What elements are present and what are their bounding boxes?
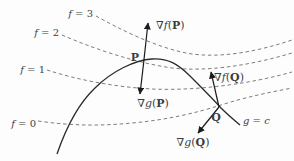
label-point-Q: Q [211,111,221,124]
diagram-svg: f = 3f = 2f = 1f = 0∇f(P)P∇g(P)∇f(Q)Qg =… [0,0,294,161]
lagrange-multipliers-figure: f = 3f = 2f = 1f = 0∇f(P)P∇g(P)∇f(Q)Qg =… [0,0,294,161]
label-f2: f = 2 [33,27,59,38]
label-f0: f = 0 [10,118,36,129]
gradient-f-at-P [144,23,149,64]
label-grad-f-Q: ∇f(Q) [214,71,244,84]
gradient-g-at-P [140,64,144,94]
label-grad-f-P: ∇f(P) [156,19,185,32]
level-curves-group [38,16,292,154]
label-grad-g-Q: ∇g(Q) [177,136,210,149]
label-f3: f = 3 [67,8,93,19]
gradient-arrows-group [140,23,219,133]
level-curve-f2 [62,35,292,69]
label-g-equals-c: g = c [243,115,270,126]
label-point-P: P [131,51,139,64]
label-grad-g-P: ∇g(P) [137,97,169,110]
level-curve-f3 [96,16,292,55]
label-f1: f = 1 [19,64,45,75]
level-curve-f1 [47,70,292,89]
labels-group: f = 3f = 2f = 1f = 0∇f(P)P∇g(P)∇f(Q)Qg =… [10,8,270,149]
